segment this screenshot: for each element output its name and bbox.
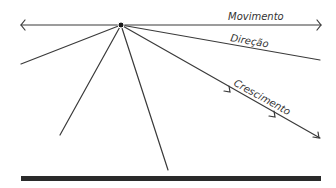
ray-lower-left	[60, 25, 121, 135]
ray-lower-center	[121, 25, 168, 170]
movement-direction-growth-diagram: Movimento Direção Crescimento	[0, 0, 336, 188]
ground-bar	[21, 176, 321, 181]
growth-label: Crescimento	[232, 77, 292, 117]
growth-arrowhead-1-icon	[224, 86, 230, 92]
ray-left	[21, 25, 121, 64]
movement-label: Movimento	[228, 11, 284, 22]
origin-dot	[118, 22, 124, 28]
growth-arrowhead-2-icon	[269, 111, 275, 117]
